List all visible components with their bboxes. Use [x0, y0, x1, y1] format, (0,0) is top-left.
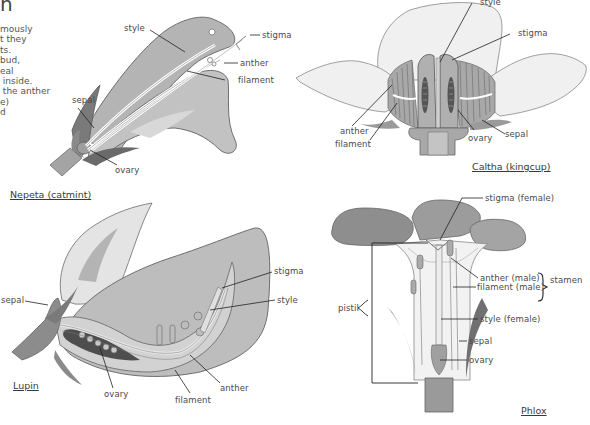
lupin-label-anther: anther: [220, 384, 249, 393]
phlox-label-filament: filament (male): [477, 283, 544, 292]
caltha-label-stigma: stigma: [518, 29, 548, 38]
nepeta-label-anther: anther: [240, 59, 269, 68]
phlox-diagram: [332, 198, 547, 412]
phlox-label-pistil: pistil: [338, 304, 359, 313]
caltha-label-style: style: [480, 0, 501, 7]
phlox-label-stamen: stamen: [550, 276, 582, 285]
phlox-stem: [425, 378, 453, 412]
lupin-label-stigma: stigma: [274, 267, 304, 276]
lupin-stem: [12, 298, 61, 360]
nepeta-label-sepal: sepal: [72, 96, 95, 105]
phlox-label-stigma: stigma (female): [485, 194, 554, 203]
nepeta-label-filament: filament: [238, 76, 274, 85]
lupin-label-style: style: [277, 296, 298, 305]
phlox-label-style: style (female): [480, 315, 540, 324]
lupin-label-ovary: ovary: [104, 390, 128, 399]
lupin-label-filament: filament: [175, 396, 211, 405]
phlox-label-ovary: ovary: [469, 356, 493, 365]
caltha-title: Caltha (kingcup): [472, 162, 551, 172]
lupin-diagram: [12, 203, 275, 393]
nepeta-label-ovary: ovary: [115, 166, 139, 175]
lupin-label-sepal: sepal: [1, 296, 24, 305]
nepeta-title: Nepeta (catmint): [10, 190, 91, 200]
phlox-center-lobe: [412, 200, 480, 240]
lupin-title: Lupin: [13, 381, 39, 391]
caltha-label-filament: filament: [335, 140, 371, 149]
caltha-label-sepal: sepal: [505, 130, 528, 139]
nepeta-label-style: style: [124, 24, 145, 33]
caltha-label-ovary: ovary: [468, 134, 492, 143]
phlox-label-sepal: sepal: [469, 337, 492, 346]
phlox-left-lobe: [332, 208, 414, 246]
caltha-label-anther: anther: [340, 127, 369, 136]
phlox-sepal-left: [385, 305, 416, 375]
phlox-title: Phlox: [521, 406, 547, 416]
nepeta-label-stigma: stigma: [262, 31, 292, 40]
